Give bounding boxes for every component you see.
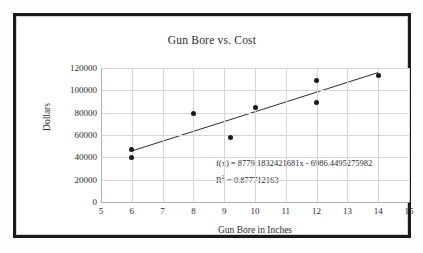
x-tick-label: 9: [212, 206, 236, 216]
x-tick-label: 6: [120, 206, 144, 216]
x-tick-label: 5: [89, 206, 113, 216]
y-tick-label: 80000: [51, 108, 97, 118]
r-squared-value: R2 = 0.877712163: [216, 170, 372, 187]
gridline-vertical: [132, 68, 133, 202]
y-tick-label: 20000: [51, 175, 97, 185]
data-point: [314, 100, 319, 105]
x-axis-label: Gun Bore in Inches: [101, 225, 409, 235]
x-tick-label: 14: [366, 206, 390, 216]
y-tick-label: 100000: [51, 85, 97, 95]
gridline-vertical: [193, 68, 194, 202]
gridline-vertical: [163, 68, 164, 202]
x-tick-label: 7: [151, 206, 175, 216]
y-tick-label: 120000: [51, 63, 97, 73]
y-tick-label: 60000: [51, 130, 97, 140]
page-background: Gun Bore vs. Cost Dollars Gun Bore in In…: [0, 0, 423, 253]
gridline-vertical: [101, 68, 102, 202]
regression-equation: f(x) = 8779.1832421681x - 6986.449527598…: [216, 158, 372, 168]
y-axis-tick-labels: 020000400006000080000100000120000: [49, 68, 97, 202]
x-tick-label: 10: [243, 206, 267, 216]
chart-title: Gun Bore vs. Cost: [16, 34, 408, 46]
x-tick-label: 13: [335, 206, 359, 216]
gridline-vertical: [409, 68, 410, 202]
gridline-vertical: [378, 68, 379, 202]
gridline-vertical: [224, 68, 225, 202]
x-tick-label: 12: [305, 206, 329, 216]
gridline-vertical: [347, 68, 348, 202]
gridline-vertical: [317, 68, 318, 202]
x-axis-tick-labels: 56789101112131415: [101, 206, 409, 220]
data-point: [228, 135, 233, 140]
x-tick-label: 8: [181, 206, 205, 216]
gridline-vertical: [286, 68, 287, 202]
gridline-vertical: [255, 68, 256, 202]
plot-area: f(x) = 8779.1832421681x - 6986.449527598…: [101, 68, 409, 202]
x-tick-label: 15: [397, 206, 421, 216]
y-tick-label: 40000: [51, 152, 97, 162]
x-tick-label: 11: [274, 206, 298, 216]
chart-frame: Gun Bore vs. Cost Dollars Gun Bore in In…: [13, 13, 411, 238]
data-point: [253, 105, 258, 110]
data-point: [376, 73, 381, 78]
gridline-horizontal: [101, 202, 409, 203]
regression-annotation: f(x) = 8779.1832421681x - 6986.449527598…: [216, 156, 372, 187]
